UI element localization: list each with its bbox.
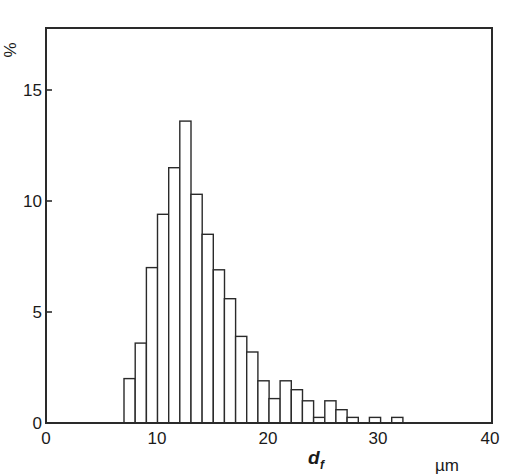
histogram-bars: [124, 121, 403, 423]
histogram-bar: [180, 121, 191, 423]
histogram-bar: [158, 214, 169, 423]
y-axis-label: %: [1, 42, 20, 57]
x-axis-subscript: f: [320, 458, 325, 472]
x-tick-label-30: 30: [369, 429, 388, 448]
histogram-bar: [213, 270, 224, 423]
histogram-chart: 0 5 10 15 % 0 10 20 30 40 d f µm: [0, 0, 507, 474]
histogram-bar: [336, 410, 347, 423]
x-tick-label-40: 40: [481, 429, 500, 448]
histogram-bar: [280, 381, 291, 423]
x-axis-unit: µm: [435, 456, 459, 474]
histogram-bar: [302, 401, 313, 423]
x-tick-label-10: 10: [148, 429, 167, 448]
histogram-bar: [135, 343, 146, 423]
x-axis-label: d f: [308, 447, 325, 472]
histogram-bar: [124, 379, 135, 423]
x-tick-label-20: 20: [259, 429, 278, 448]
x-tick-label-0: 0: [41, 429, 50, 448]
y-tick-label-10: 10: [23, 192, 42, 211]
histogram-bar: [146, 268, 157, 423]
histogram-bar: [236, 336, 247, 423]
histogram-bar: [224, 299, 235, 423]
histogram-bar: [258, 381, 269, 423]
histogram-bar: [191, 194, 202, 423]
histogram-bar: [269, 399, 280, 423]
histogram-bar: [202, 234, 213, 423]
y-tick-label-5: 5: [33, 303, 42, 322]
histogram-bar: [247, 352, 258, 423]
histogram-bar: [291, 390, 302, 423]
histogram-bar: [169, 168, 180, 423]
x-axis-symbol: d: [308, 447, 320, 468]
y-tick-label-15: 15: [23, 81, 42, 100]
plot-frame: [46, 28, 492, 423]
histogram-bar: [325, 401, 336, 423]
